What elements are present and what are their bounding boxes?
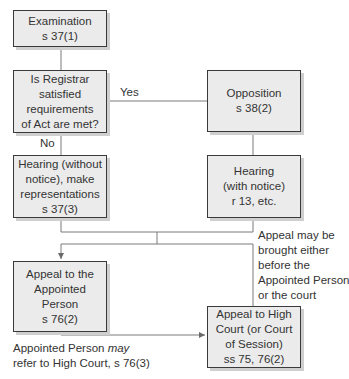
appeal-note-line: brought either bbox=[258, 243, 349, 258]
node-appeal-high-court: Appeal to High Court (or Court of Sessio… bbox=[207, 306, 301, 368]
appeal-note-line: Appointed Person bbox=[258, 273, 349, 288]
appeal-note: Appeal may be brought either before the … bbox=[258, 228, 349, 303]
node-text: s 76(2) bbox=[42, 312, 78, 327]
node-text: of Act are met? bbox=[21, 117, 98, 132]
node-text: notice), make bbox=[25, 172, 94, 187]
node-text: Appointed bbox=[34, 282, 86, 297]
node-text: representations bbox=[20, 187, 99, 202]
node-text: s 37(3) bbox=[42, 202, 78, 217]
node-text: s 37(1) bbox=[42, 29, 78, 44]
edge-hearings-join bbox=[61, 218, 253, 232]
node-text: (with notice) bbox=[223, 179, 285, 194]
node-text: Opposition bbox=[227, 86, 282, 101]
node-hearing-without-notice: Hearing (without notice), make represent… bbox=[13, 155, 107, 218]
node-appeal-appointed-person: Appeal to the Appointed Person s 76(2) bbox=[13, 261, 107, 332]
appeal-note-line: Appeal may be bbox=[258, 228, 349, 243]
node-examination: Examination s 37(1) bbox=[13, 10, 107, 47]
node-text: Examination bbox=[28, 14, 91, 29]
node-text: satisfied bbox=[39, 87, 81, 102]
node-text: Person bbox=[42, 297, 78, 312]
node-hearing-with-notice: Hearing (with notice) r 13, etc. bbox=[207, 155, 301, 218]
node-text: of Session) bbox=[225, 337, 283, 352]
clipped-caption-strip bbox=[10, 370, 340, 379]
node-text: requirements bbox=[26, 102, 93, 117]
refer-note: Appointed Person may refer to High Court… bbox=[13, 341, 150, 371]
edge-label-yes: Yes bbox=[120, 85, 139, 100]
node-text: Hearing (without bbox=[18, 157, 102, 172]
edge-label-no: No bbox=[40, 136, 55, 151]
node-text: Court (or Court bbox=[216, 322, 293, 337]
refer-note-line-1: Appointed Person may bbox=[13, 341, 150, 356]
node-text: s 38(2) bbox=[236, 101, 272, 116]
node-text: Appeal to High bbox=[216, 307, 291, 322]
node-opposition: Opposition s 38(2) bbox=[207, 70, 301, 132]
edge-appointed-to-high-court bbox=[61, 332, 205, 335]
node-text: ss 75, 76(2) bbox=[224, 352, 285, 367]
node-decision-registrar-satisfied: Is Registrar satisfied requirements of A… bbox=[13, 70, 107, 133]
refer-note-line-2: refer to High Court, s 76(3) bbox=[13, 356, 150, 371]
node-text: r 13, etc. bbox=[232, 194, 277, 209]
flowchart-canvas: Examination s 37(1) Is Registrar satisfi… bbox=[0, 0, 349, 379]
refer-note-emphasis: may bbox=[108, 342, 130, 354]
node-text: Appeal to the bbox=[26, 267, 94, 282]
node-text: Hearing bbox=[234, 164, 274, 179]
appeal-note-line: or the court bbox=[258, 288, 349, 303]
appeal-note-line: before the bbox=[258, 258, 349, 273]
node-text: Is Registrar bbox=[31, 72, 90, 87]
refer-note-prefix: Appointed Person bbox=[13, 342, 108, 354]
